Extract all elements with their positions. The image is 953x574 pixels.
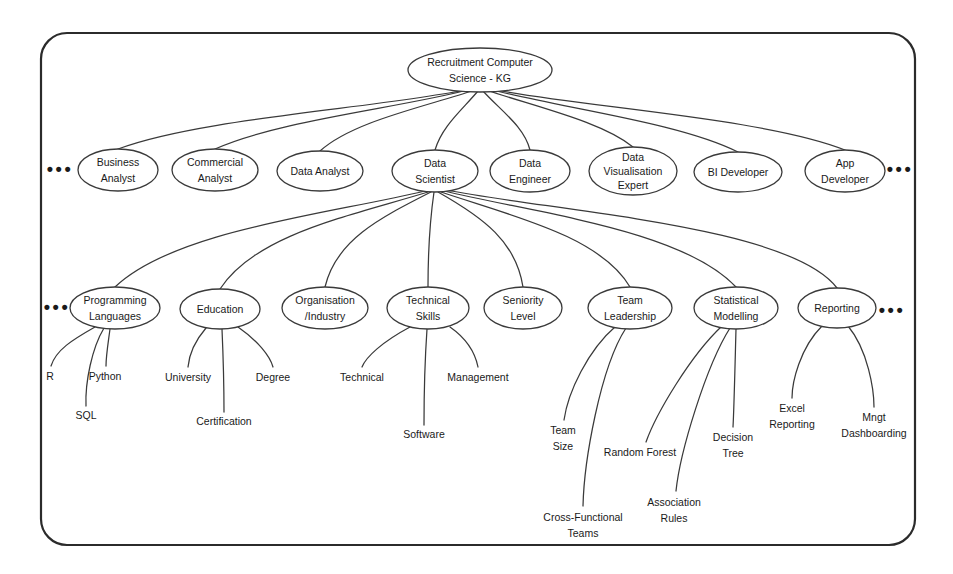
edge-education-degree <box>238 327 273 367</box>
leaf-cross-functional-teams-line2: Teams <box>568 527 599 539</box>
node-programming-languages[interactable]: Programming Languages <box>70 287 160 329</box>
leaf-association-rules-line2: Rules <box>661 512 688 524</box>
node-data-scientist[interactable]: Data Scientist <box>392 150 478 192</box>
edge-reporting-excel-reporting <box>792 326 822 398</box>
edge-root-app-developer <box>491 89 845 150</box>
node-reporting[interactable]: Reporting <box>798 288 876 328</box>
node-group-leaves: R Python SQL University Certification De… <box>46 370 907 539</box>
edge-scientist-technical-skills <box>428 192 434 287</box>
node-app-developer[interactable]: App Developer <box>805 150 885 192</box>
edge-scientist-team-leadership <box>441 192 630 287</box>
node-group-attributes: Programming Languages Education Organisa… <box>70 287 876 329</box>
education-label-line1: Education <box>197 303 244 315</box>
node-education[interactable]: Education <box>180 289 260 329</box>
edge-education-university <box>188 328 206 367</box>
roles-left-ellipsis-icon: ••• <box>47 159 73 179</box>
leaf-degree: Degree <box>256 371 291 383</box>
edge-statistical-modelling-association-rules <box>676 328 730 491</box>
leaf-software: Software <box>403 428 445 440</box>
commercial-analyst-label-line2: Analyst <box>198 172 233 184</box>
edge-technical-skills-management <box>450 327 478 367</box>
seniority-level-label-line1: Seniority <box>503 294 545 306</box>
leaf-mngt-dashboarding-line2: Dashboarding <box>841 427 907 439</box>
node-team-leadership[interactable]: Team Leadership <box>588 287 672 329</box>
node-bi-developer[interactable]: BI Developer <box>694 152 782 192</box>
leaf-sql: SQL <box>75 409 96 421</box>
data-visualisation-expert-label-line1: Data <box>622 151 644 163</box>
business-analyst-label-line2: Analyst <box>101 172 136 184</box>
node-data-engineer[interactable]: Data Engineer <box>490 150 570 192</box>
knowledge-graph-svg: Recruitment Computer Science - KG Busine… <box>0 0 953 574</box>
node-technical-skills[interactable]: Technical Skills <box>387 287 469 329</box>
node-data-analyst[interactable]: Data Analyst <box>277 151 363 191</box>
data-scientist-label-line2: Scientist <box>415 173 455 185</box>
leaf-decision-tree-line2: Tree <box>722 447 743 459</box>
data-scientist-label-line1: Data <box>424 157 446 169</box>
edge-statistical-modelling-random-forest <box>646 326 722 442</box>
statistical-modelling-label-line2: Modelling <box>714 310 759 322</box>
edge-group-attributes-to-leaves <box>51 326 874 506</box>
bi-developer-label-line1: BI Developer <box>708 166 769 178</box>
node-organisation-industry[interactable]: Organisation /Industry <box>282 287 368 329</box>
diagram-border <box>41 33 915 545</box>
root-label-line2: Science - KG <box>449 72 511 84</box>
node-root[interactable]: Recruitment Computer Science - KG <box>408 48 552 92</box>
leaf-association-rules-line1: Association <box>647 496 701 508</box>
organisation-industry-label-line1: Organisation <box>295 294 355 306</box>
edge-root-data-visualisation-expert <box>486 90 633 147</box>
edge-scientist-seniority-level <box>438 192 523 287</box>
edge-team-leadership-cross-functional-teams <box>583 328 626 506</box>
edge-root-commercial-analyst <box>215 89 472 149</box>
edge-root-data-engineer <box>483 91 530 150</box>
edge-programming-languages-r <box>51 327 95 366</box>
leaf-decision-tree-line1: Decision <box>713 431 753 443</box>
leaf-r: R <box>46 370 54 382</box>
edge-team-leadership-team-size <box>564 326 616 420</box>
leaf-mngt-dashboarding-line1: Mngt <box>862 411 885 423</box>
edge-reporting-mngt-dashboarding <box>848 326 874 407</box>
programming-languages-label-line2: Languages <box>89 310 141 322</box>
edge-scientist-reporting <box>446 190 837 288</box>
commercial-analyst-label-line1: Commercial <box>187 156 243 168</box>
team-leadership-label-line2: Leadership <box>604 310 656 322</box>
leaf-cross-functional-teams-line1: Cross-Functional <box>543 511 622 523</box>
node-statistical-modelling[interactable]: Statistical Modelling <box>694 287 778 329</box>
node-group-roles: Business Analyst Commercial Analyst Data… <box>78 147 885 195</box>
app-developer-label-line1: App <box>836 157 855 169</box>
leaf-certification: Certification <box>196 415 252 427</box>
data-visualisation-expert-label-line3: Expert <box>618 179 648 191</box>
leaf-team-size-line2: Size <box>553 440 574 452</box>
attributes-left-ellipsis-icon: ••• <box>44 297 70 317</box>
edge-group-root-to-roles <box>118 89 845 152</box>
seniority-level-label-line2: Level <box>510 310 535 322</box>
root-label-line1: Recruitment Computer <box>427 56 533 68</box>
node-commercial-analyst[interactable]: Commercial Analyst <box>172 149 258 191</box>
leaf-technical: Technical <box>340 371 384 383</box>
leaf-management: Management <box>447 371 508 383</box>
edge-root-business-analyst <box>118 89 470 149</box>
edge-technical-skills-software <box>424 329 427 425</box>
edge-scientist-programming-languages <box>115 191 425 287</box>
leaf-random-forest: Random Forest <box>604 446 676 458</box>
node-seniority-level[interactable]: Seniority Level <box>484 287 562 329</box>
data-analyst-label-line1: Data Analyst <box>291 165 350 177</box>
leaf-team-size-line1: Team <box>550 424 576 436</box>
edge-technical-skills-technical <box>362 327 410 367</box>
edge-group-data-scientist-to-attributes <box>115 190 837 289</box>
root-ellipse[interactable] <box>408 48 552 92</box>
edge-education-certification <box>222 329 224 412</box>
edge-scientist-statistical-modelling <box>444 191 736 287</box>
edge-programming-languages-sql <box>86 328 104 406</box>
data-engineer-label-line1: Data <box>519 157 541 169</box>
node-business-analyst[interactable]: Business Analyst <box>78 149 158 191</box>
node-data-visualisation-expert[interactable]: Data Visualisation Expert <box>589 147 677 195</box>
edge-root-bi-developer <box>489 89 738 152</box>
business-analyst-label-line1: Business <box>97 156 140 168</box>
statistical-modelling-label-line1: Statistical <box>714 294 759 306</box>
reporting-label-line1: Reporting <box>814 302 860 314</box>
leaf-university: University <box>165 371 212 383</box>
leaf-python: Python <box>89 370 122 382</box>
organisation-industry-label-line2: /Industry <box>305 310 346 322</box>
diagram-canvas: Recruitment Computer Science - KG Busine… <box>0 0 953 574</box>
edge-programming-languages-python <box>106 329 110 366</box>
